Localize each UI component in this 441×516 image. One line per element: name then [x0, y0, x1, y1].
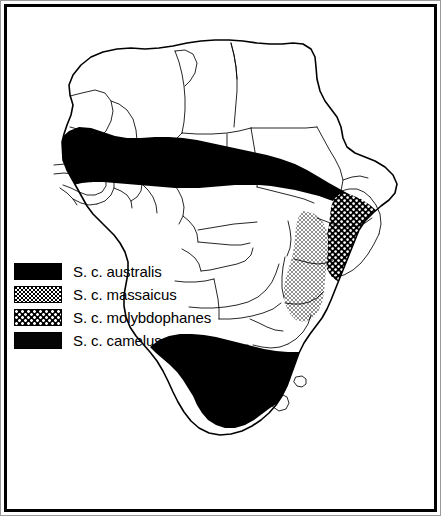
legend-label-molybdophanes: S. c. molybdophanes [73, 309, 211, 326]
legend-swatch-massaicus [14, 286, 62, 303]
ostrich-subspecies-distribution-figure: S. c. australis S. c. massaicus S. c. mo… [0, 0, 441, 516]
legend: S. c. australis S. c. massaicus S. c. mo… [14, 260, 244, 352]
legend-item-australis: S. c. australis [14, 260, 244, 282]
africa-map-svg [7, 7, 434, 509]
legend-item-camelus: S. c. camelus [14, 329, 244, 351]
legend-label-massaicus: S. c. massaicus [73, 286, 177, 303]
map-background [7, 7, 434, 509]
legend-swatch-camelus [14, 332, 62, 349]
legend-item-massaicus: S. c. massaicus [14, 283, 244, 305]
legend-label-camelus: S. c. camelus [73, 332, 162, 349]
map-canvas [7, 7, 434, 509]
legend-item-molybdophanes: S. c. molybdophanes [14, 306, 244, 328]
legend-swatch-australis [14, 263, 62, 280]
legend-label-australis: S. c. australis [73, 263, 162, 280]
legend-swatch-molybdophanes [14, 309, 62, 326]
